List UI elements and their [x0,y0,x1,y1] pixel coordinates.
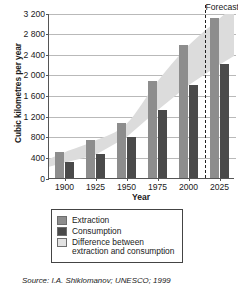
legend-item-extraction: Extraction [57,216,177,226]
x-axis-tick-label: 1900 [55,182,74,192]
y-axis-tick-label: 400 [31,154,45,163]
bar-extraction-2025 [210,18,219,178]
chart-figure: Cubic kilometres per year 3 2002 8002 40… [0,0,238,292]
x-axis-tick-label: 1975 [148,182,167,192]
x-axis-tick-mark [220,178,221,181]
legend-label-consumption: Consumption [72,227,121,237]
source-note: Source: I.A. Shiklomanov; UNESCO; 1999 [22,276,171,285]
x-axis-tick-label: 2000 [179,182,198,192]
y-axis-tick-label: 2 400 [23,50,45,59]
difference-band [49,14,234,178]
y-axis-title: Cubic kilometres per year [13,23,23,163]
legend-label-extraction: Extraction [72,216,109,226]
bar-consumption-1950 [127,137,136,178]
difference-band-shape [49,14,234,167]
legend-label-difference: Difference between extraction and consum… [72,238,177,257]
bar-consumption-1975 [158,110,167,178]
bar-extraction-1900 [55,152,64,178]
bar-group [148,14,167,178]
bar-consumption-1900 [65,162,74,177]
y-axis-tick-label: 2 000 [23,71,45,80]
x-axis-tick-label: 2025 [210,182,229,192]
y-axis-tick-label: 3 200 [23,9,45,18]
x-axis-tick-mark [127,178,128,181]
bar-extraction-1950 [117,123,126,177]
forecast-divider-line [205,5,206,178]
bar-group [55,14,74,178]
bar-group [210,14,229,178]
x-axis-tick-mark [65,178,66,181]
bar-extraction-1925 [86,140,95,178]
x-axis-tick-label: 1925 [86,182,105,192]
y-axis-tick-label: 0 [40,174,45,183]
x-axis-tick-label: 1950 [117,182,136,192]
legend-swatch-extraction [57,216,67,225]
y-axis-tick-label: 800 [31,133,45,142]
bar-consumption-2000 [189,85,198,178]
plot-area: 3 2002 8002 4002 0001 6001 2008004000 19… [48,14,234,179]
legend-swatch-consumption [57,227,67,236]
bar-extraction-2000 [179,45,188,178]
forecast-label: Forecast [206,2,238,12]
bar-group [179,14,198,178]
bar-group [117,14,136,178]
y-axis-tick-label: 2 800 [23,30,45,39]
y-axis-tick-label: 1 600 [23,92,45,101]
x-axis-tick-mark [158,178,159,181]
bar-consumption-1925 [96,154,105,177]
y-axis-tick-mark [46,179,49,180]
x-axis-tick-mark [96,178,97,181]
bar-consumption-2025 [220,64,229,177]
x-axis-tick-mark [189,178,190,181]
legend-item-difference: Difference between extraction and consum… [57,238,177,257]
chart-legend: Extraction Consumption Difference betwee… [51,209,183,263]
bar-extraction-1975 [148,81,157,177]
legend-swatch-difference [57,238,67,247]
x-axis-title: Year [48,192,234,202]
bar-group [86,14,105,178]
y-axis-tick-label: 1 200 [23,112,45,121]
legend-item-consumption: Consumption [57,227,177,237]
